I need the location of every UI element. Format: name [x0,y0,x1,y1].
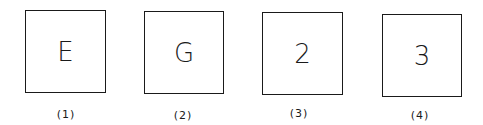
panel-2-symbol: G [145,40,223,66]
panel-1-box: E [25,10,106,93]
panel-1-symbol: E [26,39,105,65]
panel-2-caption: (2) [163,109,203,122]
panel-4-box: 3 [382,14,462,97]
panel-1-caption: (1) [46,108,86,121]
panel-4-symbol: 3 [383,43,461,69]
panel-3-box: 2 [262,12,343,95]
panel-2-box: G [144,11,224,94]
panel-4-caption: (4) [400,109,440,122]
panel-3-symbol: 2 [263,41,342,67]
panel-3-caption: (3) [279,107,319,120]
